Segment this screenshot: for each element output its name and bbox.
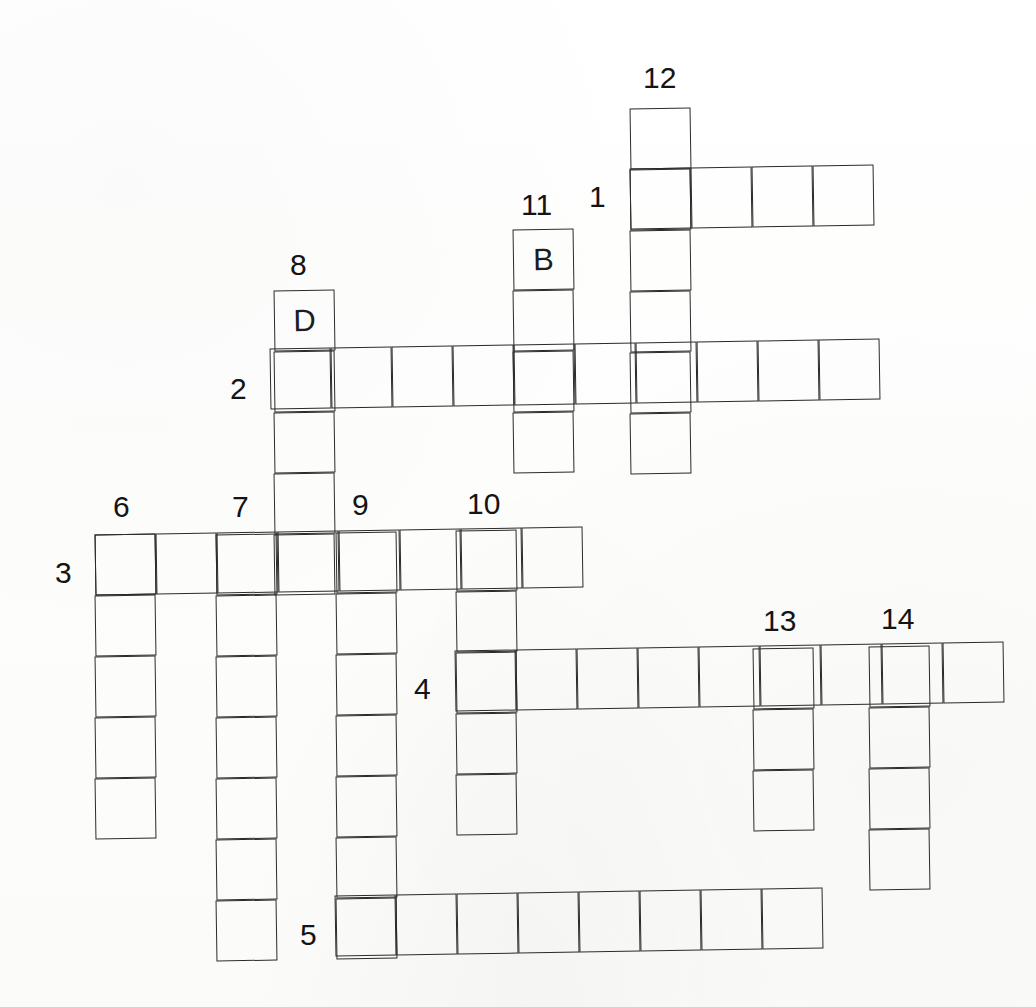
cell-down-6-4[interactable] xyxy=(95,717,157,779)
cell-across-1-2[interactable] xyxy=(691,167,753,229)
cell-down-12-1[interactable] xyxy=(630,108,692,170)
clue-number-11-down: 11 xyxy=(521,190,552,220)
cell-down-6-2[interactable] xyxy=(95,595,157,657)
clue-number-4-across: 4 xyxy=(414,674,431,704)
cell-across-1-4[interactable] xyxy=(813,165,875,227)
cell-down-9-5[interactable] xyxy=(336,776,398,838)
cell-across-2-8[interactable] xyxy=(697,341,759,403)
cell-down-8-2[interactable] xyxy=(274,351,336,413)
cell-down-14-3[interactable] xyxy=(869,768,931,830)
cell-down-10-2[interactable] xyxy=(456,591,518,653)
cell-across-4-3[interactable] xyxy=(577,648,639,710)
cell-down-7-6[interactable] xyxy=(216,839,278,901)
clue-number-8-down: 8 xyxy=(290,250,307,280)
crossword-grid[interactable]: 1234567D8910B11121314 xyxy=(0,0,1036,1007)
cell-across-2-6[interactable] xyxy=(575,343,637,405)
cell-down-6-3[interactable] xyxy=(95,656,157,718)
cell-across-5-6[interactable] xyxy=(640,890,702,952)
cell-across-1-3[interactable] xyxy=(752,166,814,228)
clue-number-10-down: 10 xyxy=(467,489,500,519)
cell-across-4-4[interactable] xyxy=(638,647,700,709)
cell-down-9-6[interactable] xyxy=(336,837,398,899)
cell-across-2-10[interactable] xyxy=(819,339,881,401)
cell-down-7-5[interactable] xyxy=(216,778,278,840)
cell-down-9-7[interactable] xyxy=(336,898,398,960)
clue-number-1-across: 1 xyxy=(589,182,606,212)
cell-across-3-2[interactable] xyxy=(156,533,218,595)
clue-number-9-down: 9 xyxy=(352,490,369,520)
cell-down-12-5[interactable] xyxy=(630,352,692,414)
cell-down-12-3[interactable] xyxy=(630,230,692,292)
cell-down-13-1[interactable] xyxy=(753,648,815,710)
clue-number-14-down: 14 xyxy=(881,604,914,634)
cell-down-13-3[interactable] xyxy=(753,770,815,832)
clue-number-3-across: 3 xyxy=(55,558,72,588)
cell-across-5-4[interactable] xyxy=(518,892,580,954)
cell-down-7-2[interactable] xyxy=(216,595,278,657)
crossword-puzzle-sheet: 1234567D8910B11121314 xyxy=(0,0,1036,1007)
clue-number-12-down: 12 xyxy=(643,63,676,93)
cell-down-8-4[interactable] xyxy=(274,473,336,535)
cell-across-5-2[interactable] xyxy=(396,894,458,956)
cell-down-10-4[interactable] xyxy=(456,713,518,775)
cell-down-11-3[interactable] xyxy=(513,351,575,413)
cell-down-6-1[interactable] xyxy=(95,534,157,596)
cell-down-7-4[interactable] xyxy=(216,717,278,779)
cell-across-2-4[interactable] xyxy=(453,345,515,407)
cell-down-10-5[interactable] xyxy=(456,774,518,836)
cell-across-2-2[interactable] xyxy=(331,347,393,409)
cell-letter: D xyxy=(293,305,316,336)
cell-down-12-6[interactable] xyxy=(630,413,692,475)
cell-down-9-2[interactable] xyxy=(336,593,398,655)
cell-down-14-4[interactable] xyxy=(869,829,931,891)
cell-across-5-8[interactable] xyxy=(762,888,824,950)
cell-down-7-7[interactable] xyxy=(216,900,278,962)
cell-across-2-3[interactable] xyxy=(392,346,454,408)
cell-across-4-5[interactable] xyxy=(699,646,761,708)
cell-down-6-5[interactable] xyxy=(95,778,157,840)
cell-down-8-1[interactable]: D xyxy=(274,290,336,352)
clue-number-7-down: 7 xyxy=(232,492,249,522)
cell-down-7-1[interactable] xyxy=(216,534,278,596)
cell-down-9-4[interactable] xyxy=(336,715,398,777)
cell-down-10-1[interactable] xyxy=(456,530,518,592)
cell-down-11-2[interactable] xyxy=(513,290,575,352)
cell-down-8-5[interactable] xyxy=(274,534,336,596)
cell-down-11-1[interactable]: B xyxy=(513,229,575,291)
cell-down-12-4[interactable] xyxy=(630,291,692,353)
cell-across-3-8[interactable] xyxy=(522,527,584,589)
cell-down-9-3[interactable] xyxy=(336,654,398,716)
cell-across-2-9[interactable] xyxy=(758,340,820,402)
clue-number-2-across: 2 xyxy=(230,374,247,404)
cell-down-12-2[interactable] xyxy=(630,169,692,231)
cell-down-11-4[interactable] xyxy=(513,412,575,474)
cell-across-5-7[interactable] xyxy=(701,889,763,951)
cell-across-4-9[interactable] xyxy=(943,642,1005,704)
cell-across-3-6[interactable] xyxy=(400,529,462,591)
clue-number-6-down: 6 xyxy=(113,492,130,522)
cell-down-14-2[interactable] xyxy=(869,707,931,769)
cell-down-9-1[interactable] xyxy=(336,532,398,594)
cell-down-13-2[interactable] xyxy=(753,709,815,771)
cell-letter: B xyxy=(533,244,554,275)
cell-down-8-3[interactable] xyxy=(274,412,336,474)
cell-down-10-3[interactable] xyxy=(456,652,518,714)
cell-across-5-5[interactable] xyxy=(579,891,641,953)
clue-number-13-down: 13 xyxy=(763,606,796,636)
cell-down-7-3[interactable] xyxy=(216,656,278,718)
cell-across-5-3[interactable] xyxy=(457,893,519,955)
clue-number-5-across: 5 xyxy=(300,920,317,950)
cell-across-4-2[interactable] xyxy=(516,649,578,711)
cell-down-14-1[interactable] xyxy=(869,646,931,708)
